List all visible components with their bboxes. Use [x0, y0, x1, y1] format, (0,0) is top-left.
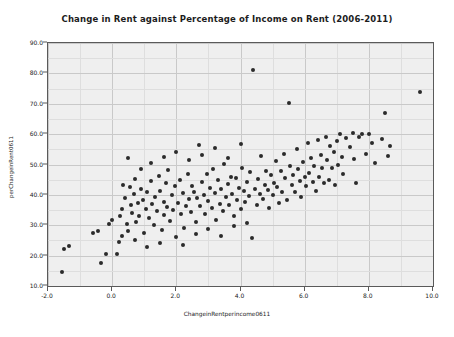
- data-point: [117, 240, 121, 244]
- data-point: [134, 220, 138, 224]
- data-point: [107, 222, 111, 226]
- y-tick-mark: [43, 163, 47, 164]
- data-point: [91, 231, 95, 235]
- data-point: [187, 158, 191, 162]
- x-tick-mark: [111, 287, 112, 291]
- data-point: [120, 234, 124, 238]
- data-point: [319, 153, 323, 157]
- data-point: [96, 229, 100, 233]
- data-point: [352, 157, 356, 161]
- data-point: [307, 171, 311, 175]
- data-point: [208, 186, 212, 190]
- data-point: [320, 166, 324, 170]
- data-point: [344, 136, 348, 140]
- data-point: [341, 172, 345, 176]
- gridline-horizontal: [48, 43, 433, 44]
- data-point: [200, 180, 204, 184]
- data-point: [263, 183, 267, 187]
- y-axis-label: perChangeinRent0611: [8, 117, 14, 217]
- data-point: [158, 241, 162, 245]
- data-point: [216, 178, 220, 182]
- gridline-vertical: [433, 43, 434, 286]
- data-point: [250, 236, 254, 240]
- data-point: [357, 135, 361, 139]
- y-tick-mark: [43, 133, 47, 134]
- data-point: [179, 212, 183, 216]
- data-point: [162, 213, 166, 217]
- data-point: [195, 196, 199, 200]
- data-point: [136, 201, 140, 205]
- data-point: [115, 252, 119, 256]
- data-point: [303, 175, 307, 179]
- gridline-horizontal: [48, 149, 433, 150]
- scatter-plot-figure: Change in Rent against Percentage of Inc…: [0, 0, 454, 337]
- y-tick-mark: [43, 254, 47, 255]
- data-point: [383, 111, 387, 115]
- y-tick-mark: [43, 193, 47, 194]
- data-point: [206, 227, 210, 231]
- data-point: [176, 201, 180, 205]
- data-point: [287, 101, 291, 105]
- data-point: [192, 190, 196, 194]
- data-point: [332, 150, 336, 154]
- data-point: [168, 219, 172, 223]
- data-point: [60, 270, 64, 274]
- data-point: [174, 235, 178, 239]
- y-tick-label: 60.0: [15, 130, 43, 137]
- x-tick-mark: [175, 287, 176, 291]
- data-point: [133, 238, 137, 242]
- x-tick-label: -2.0: [32, 292, 62, 299]
- y-tick-mark: [43, 285, 47, 286]
- data-point: [226, 156, 230, 160]
- data-point: [227, 203, 231, 207]
- gridline-horizontal: [48, 104, 433, 105]
- y-tick-label: 80.0: [15, 69, 43, 76]
- data-point: [182, 226, 186, 230]
- y-tick-label: 70.0: [15, 99, 43, 106]
- data-point: [237, 186, 241, 190]
- x-tick-mark: [432, 287, 433, 291]
- gridline-horizontal: [48, 89, 433, 90]
- data-point: [299, 195, 303, 199]
- x-tick-label: 4.0: [225, 292, 255, 299]
- data-point: [110, 218, 114, 222]
- data-point: [121, 183, 125, 187]
- data-point: [309, 156, 313, 160]
- gridline-horizontal: [48, 195, 433, 196]
- data-point: [166, 168, 170, 172]
- data-point: [162, 155, 166, 159]
- data-point: [174, 150, 178, 154]
- data-point: [264, 169, 268, 173]
- data-point: [317, 175, 321, 179]
- data-point: [330, 166, 334, 170]
- data-point: [150, 202, 154, 206]
- data-point: [311, 180, 315, 184]
- data-point: [187, 197, 191, 201]
- data-point: [235, 198, 239, 202]
- data-point: [295, 147, 299, 151]
- data-point: [239, 142, 243, 146]
- y-tick-label: 40.0: [15, 190, 43, 197]
- x-tick-label: 0.0: [96, 292, 126, 299]
- data-point: [312, 164, 316, 168]
- data-point: [158, 189, 162, 193]
- y-tick-label: 50.0: [15, 160, 43, 167]
- data-point: [322, 181, 326, 185]
- data-point: [282, 152, 286, 156]
- data-point: [189, 210, 193, 214]
- data-point: [170, 193, 174, 197]
- x-tick-mark: [47, 287, 48, 291]
- data-point: [194, 220, 198, 224]
- data-point: [157, 174, 161, 178]
- data-point: [259, 154, 263, 158]
- data-point: [153, 195, 157, 199]
- data-point: [178, 178, 182, 182]
- data-point: [351, 131, 355, 135]
- data-point: [184, 204, 188, 208]
- data-point: [239, 207, 243, 211]
- data-point: [245, 180, 249, 184]
- data-point: [340, 155, 344, 159]
- data-point: [221, 209, 225, 213]
- data-point: [155, 209, 159, 213]
- data-point: [120, 207, 124, 211]
